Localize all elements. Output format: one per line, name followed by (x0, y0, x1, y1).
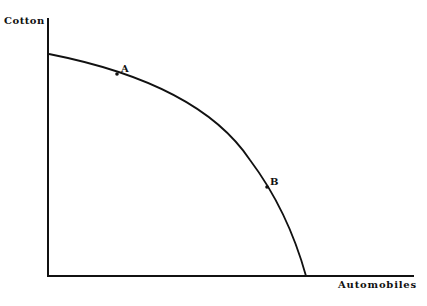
y-axis-label: Cotton (4, 15, 45, 26)
point-b-label: B (270, 176, 278, 187)
point-a-label: A (121, 63, 129, 74)
point-a-marker (115, 72, 119, 76)
ppf-diagram (0, 0, 427, 306)
x-axis-label: Automobiles (338, 279, 417, 290)
point-b-marker (265, 185, 269, 189)
ppf-curve (49, 54, 306, 276)
